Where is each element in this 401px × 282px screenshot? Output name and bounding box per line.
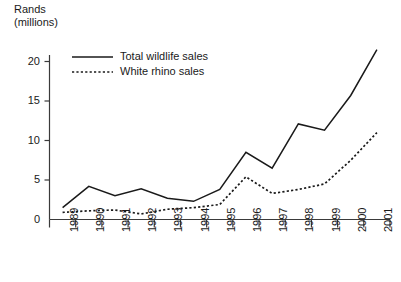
y-tick-label: 20 [14, 55, 40, 67]
plot-area [0, 0, 401, 282]
legend-label-0: Total wildlife sales [120, 50, 208, 62]
x-tick-label: 1995 [225, 207, 237, 231]
x-tick-label: 1991 [120, 207, 132, 231]
x-tick-label: 1994 [199, 207, 211, 231]
legend-swatches [72, 57, 113, 72]
x-tick-label: 2000 [356, 207, 368, 231]
series-lines [63, 50, 377, 214]
y-tick-label: 5 [14, 173, 40, 185]
legend-label-1: White rhino sales [120, 65, 204, 77]
x-tick-label: 1993 [172, 207, 184, 231]
axes [50, 55, 391, 220]
x-tick-label: 1998 [303, 207, 315, 231]
x-tick-label: 1999 [330, 207, 342, 231]
series-line-1 [63, 133, 377, 214]
y-tick-label: 0 [14, 213, 40, 225]
x-tick-label: 2001 [382, 207, 394, 231]
y-tick-label: 10 [14, 134, 40, 146]
y-tick-label: 15 [14, 94, 40, 106]
x-tick-label: 1989 [68, 207, 80, 231]
series-line-0 [63, 50, 377, 208]
tick-marks [45, 62, 391, 228]
x-tick-label: 1992 [146, 207, 158, 231]
x-tick-label: 1996 [251, 207, 263, 231]
x-tick-label: 1990 [94, 207, 106, 231]
chart-container: Rands(millions) 05101520 198919901991199… [0, 0, 401, 282]
x-tick-label: 1997 [277, 207, 289, 231]
